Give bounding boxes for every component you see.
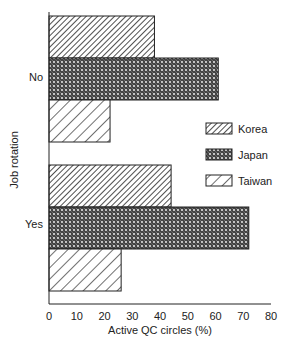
legend-swatch-taiwan	[206, 175, 232, 186]
y-category-yes: Yes	[25, 218, 43, 230]
bar-korea-yes	[49, 165, 171, 207]
legend-swatch-japan	[206, 149, 232, 160]
x-tick-labels: 01020304050607080	[46, 310, 277, 322]
legend-swatch-korea	[206, 123, 232, 134]
legend: Korea Japan Taiwan	[206, 123, 272, 187]
x-tick-label: 50	[182, 310, 194, 322]
x-axis-label: Active QC circles (%)	[108, 324, 212, 336]
x-tick-label: 20	[98, 310, 110, 322]
x-tick-label: 60	[209, 310, 221, 322]
bar-japan-yes	[49, 207, 249, 249]
legend-label-taiwan: Taiwan	[238, 175, 272, 187]
x-tick-label: 30	[126, 310, 138, 322]
y-axis-label: Job rotation	[8, 131, 20, 188]
x-tick-label: 0	[46, 310, 52, 322]
bar-chart: 01020304050607080 Active QC circles (%) …	[0, 0, 288, 347]
x-tick-label: 70	[237, 310, 249, 322]
y-category-no: No	[29, 71, 43, 83]
bar-korea-no	[49, 16, 154, 58]
legend-label-korea: Korea	[238, 123, 268, 135]
x-tick-label: 10	[71, 310, 83, 322]
x-tick-label: 80	[265, 310, 277, 322]
bar-taiwan-no	[49, 100, 110, 142]
legend-label-japan: Japan	[238, 149, 268, 161]
x-tick-label: 40	[154, 310, 166, 322]
bar-taiwan-yes	[49, 249, 121, 291]
bar-japan-no	[49, 58, 218, 100]
